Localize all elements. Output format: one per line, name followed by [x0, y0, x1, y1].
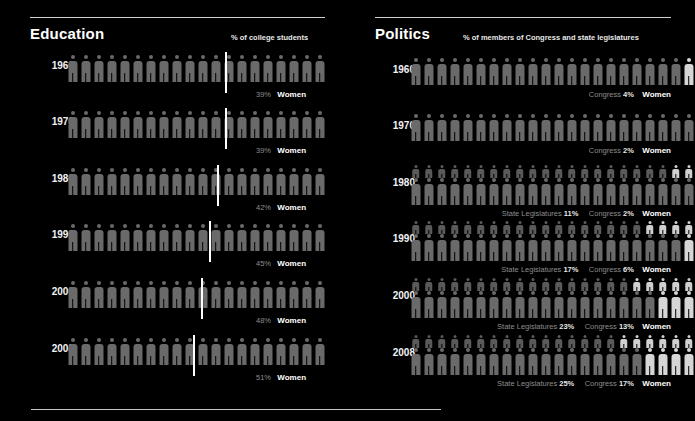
person-figure	[131, 111, 144, 138]
congress-person-figure	[578, 58, 591, 85]
figure-legs	[98, 356, 100, 365]
figure-legs	[428, 309, 430, 318]
person-figure	[274, 168, 287, 195]
figure-legs	[675, 366, 677, 375]
congress-person-figure	[630, 291, 643, 318]
state-person-figure	[552, 335, 565, 348]
congress-person-figure	[643, 178, 656, 205]
figure-head	[201, 168, 205, 172]
congress-person-figure	[487, 114, 500, 141]
figure-head	[635, 348, 639, 352]
figure-legs	[163, 299, 165, 308]
state-person-figure	[409, 278, 422, 291]
figure-head	[531, 234, 535, 238]
state-legislatures-label: State Legislatures	[497, 379, 557, 388]
congress-person-figure	[643, 234, 656, 261]
figure-legs	[319, 356, 321, 365]
congress-woman-figure	[682, 234, 695, 261]
figure-head	[71, 281, 75, 285]
figure-head	[648, 335, 651, 338]
person-figure	[170, 168, 183, 195]
person-figure	[183, 168, 196, 195]
figure-head	[266, 111, 270, 115]
state-woman-figure	[656, 278, 669, 291]
figure-head	[84, 281, 88, 285]
figure-legs	[662, 196, 664, 205]
person-figure	[248, 338, 261, 365]
state-person-figure	[591, 221, 604, 234]
figure-legs	[506, 132, 508, 141]
figure-head	[84, 55, 88, 59]
figure-legs	[597, 132, 599, 141]
figure-head	[123, 281, 127, 285]
figure-head	[466, 114, 470, 118]
figure-legs	[649, 252, 651, 261]
figure-head	[175, 111, 179, 115]
figure-head	[583, 348, 587, 352]
congress-person-figure	[461, 178, 474, 205]
congress-person-figure	[617, 58, 630, 85]
congress-person-figure	[461, 291, 474, 318]
figure-legs	[72, 242, 74, 251]
figure-head	[84, 224, 88, 228]
congress-woman-figure	[656, 291, 669, 318]
figure-head	[466, 335, 469, 338]
figure-head	[440, 234, 444, 238]
person-figure	[170, 224, 183, 251]
person-figure	[92, 168, 105, 195]
state-person-figure	[565, 335, 578, 348]
congress-person-figure	[565, 234, 578, 261]
figure-head	[136, 338, 140, 342]
congress-person-figure	[630, 114, 643, 141]
figure-head	[570, 335, 573, 338]
figure-head	[292, 281, 296, 285]
figure-legs	[124, 73, 126, 82]
congress-person-figure	[487, 348, 500, 375]
state-woman-figure	[669, 335, 682, 348]
state-person-figure	[526, 335, 539, 348]
person-figure	[79, 224, 92, 251]
figure-head	[635, 221, 638, 224]
education-pct-value: 51%	[256, 373, 271, 382]
figure-head	[648, 114, 652, 118]
congress-person-figure	[643, 58, 656, 85]
figure-legs	[124, 299, 126, 308]
figure-head	[505, 348, 509, 352]
state-woman-figure	[669, 165, 682, 178]
figure-head	[492, 278, 495, 281]
figure-head	[583, 165, 586, 168]
congress-person-figure	[591, 234, 604, 261]
person-figure	[105, 55, 118, 82]
congress-person-figure	[669, 58, 682, 85]
figure-head	[427, 178, 431, 182]
person-figure	[105, 338, 118, 365]
congress-person-figure	[565, 178, 578, 205]
politics-row-caption: Congress 4% Women	[589, 90, 671, 99]
figure-legs	[72, 356, 74, 365]
state-person-figure	[500, 221, 513, 234]
figure-head	[609, 221, 612, 224]
figure-head	[162, 281, 166, 285]
congress-person-figure	[448, 58, 461, 85]
figure-legs	[584, 196, 586, 205]
state-person-figure	[500, 165, 513, 178]
figure-legs	[176, 242, 178, 251]
state-person-figure	[604, 278, 617, 291]
figure-head	[479, 291, 483, 295]
figure-head	[570, 278, 573, 281]
figure-head	[687, 335, 690, 338]
figure-head	[622, 234, 626, 238]
congress-person-figure	[630, 58, 643, 85]
figure-legs	[480, 76, 482, 85]
figure-head	[84, 168, 88, 172]
figure-legs	[293, 129, 295, 138]
figure-head	[162, 338, 166, 342]
congress-person-figure	[435, 114, 448, 141]
figure-head	[427, 348, 431, 352]
figure-head	[149, 224, 153, 228]
figure-head	[661, 234, 665, 238]
person-figure	[300, 224, 313, 251]
figure-legs	[467, 366, 469, 375]
figure-head	[414, 114, 418, 118]
figure-legs	[545, 309, 547, 318]
